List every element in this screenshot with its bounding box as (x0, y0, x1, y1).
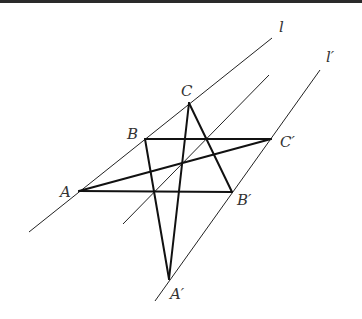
segment-B-A_prime (145, 139, 169, 279)
point-label-B: B (126, 125, 138, 143)
point-label-B_prime: B′ (236, 191, 252, 209)
point-label-A_prime: A′ (168, 285, 185, 303)
geometry-diagram: ll′ ABCA′B′C′ (0, 0, 362, 319)
point-label-C_prime: C′ (280, 133, 295, 151)
segment-A-B_prime (79, 191, 232, 192)
line-labels: ll′ (279, 18, 335, 66)
parallel-lines (29, 38, 320, 301)
line-label-l: l (279, 18, 284, 36)
line-label-l_prime: l′ (326, 48, 335, 66)
segment-A-C_prime (79, 139, 271, 191)
line-l (29, 38, 272, 232)
point-label-A: A (58, 183, 71, 201)
segment-C-B_prime (189, 103, 232, 192)
point-label-C: C (181, 82, 193, 100)
